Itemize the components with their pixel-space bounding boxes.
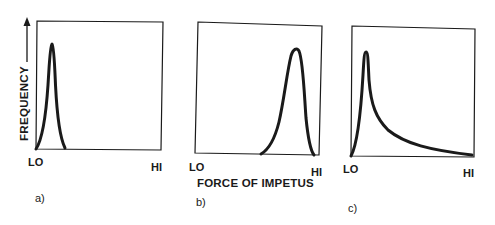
x-axis-label: FORCE OF IMPETUS	[197, 178, 314, 190]
panel-b-plot	[195, 22, 322, 155]
panel-a-hi-label: HI	[151, 162, 162, 173]
panel-a-lo-label: LO	[28, 157, 43, 168]
panel-a-caption: a)	[35, 193, 45, 204]
panel-b-curve	[261, 49, 314, 155]
y-axis-arrow-icon	[24, 17, 31, 62]
panel-c-curve	[351, 52, 472, 156]
panel-a-plot	[36, 21, 163, 150]
panel-c-hi-label: HI	[463, 168, 474, 179]
panel-c-caption: c)	[348, 203, 357, 214]
impetus-frequency-diagram: FREQUENCY LO HI a) LO HI FORCE OF IMPETU…	[0, 0, 495, 225]
panel-b-caption: b)	[196, 197, 206, 208]
y-axis-label: FREQUENCY	[19, 66, 31, 141]
panel-c-lo-label: LO	[343, 164, 358, 175]
panel-c-plot	[351, 26, 475, 157]
panel-b-lo-label: LO	[189, 162, 204, 173]
panel-a-curve	[36, 44, 65, 149]
diagram-canvas	[0, 0, 495, 225]
